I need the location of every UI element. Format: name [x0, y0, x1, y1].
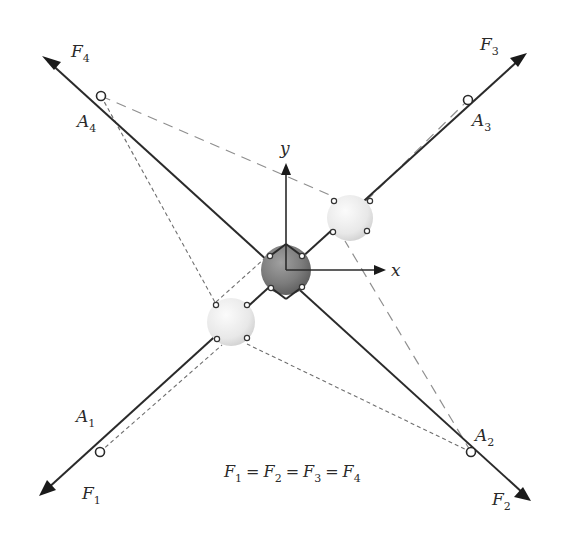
- anchor-a1: [96, 448, 105, 457]
- arrowhead-f4-icon: [42, 56, 61, 70]
- force-label-f3: F3: [479, 34, 499, 58]
- arrowhead-f2-icon: [514, 487, 531, 501]
- force-label-f4: F4: [70, 41, 90, 65]
- y-axis-arrow-icon: [281, 163, 291, 175]
- anchor-label-a1: A1: [74, 406, 95, 430]
- force-label-f2: F2: [491, 489, 511, 513]
- anchor-a4: [97, 92, 106, 101]
- force-equality-equation: F1=F2=F3=F4: [223, 462, 361, 485]
- anchor-a2: [467, 448, 476, 457]
- anchor-label-a4: A4: [75, 111, 96, 135]
- x-axis-arrow-icon: [374, 265, 386, 275]
- force-label-f1: F1: [81, 483, 101, 507]
- anchor-a3: [464, 96, 473, 105]
- anchor-label-a3: A3: [470, 110, 491, 134]
- y-axis-label: y: [279, 138, 290, 158]
- cable-force-diagram: y x F4 F3 F1 F2 A4 A3 A1 A2 F1=F2=F3=F4: [0, 0, 572, 536]
- sphere-displaced-lower: [207, 298, 255, 346]
- anchor-label-a2: A2: [473, 425, 494, 449]
- sphere-displaced-upper: [327, 195, 373, 241]
- x-axis-label: x: [391, 260, 401, 280]
